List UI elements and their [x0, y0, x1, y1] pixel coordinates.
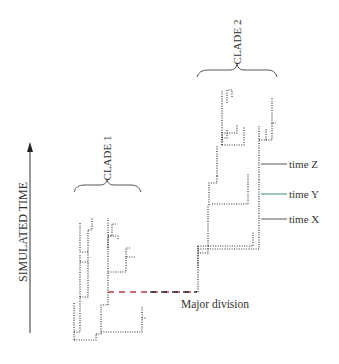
arrow-up-icon: [27, 142, 33, 152]
clade-2-label: CLADE 2: [231, 20, 243, 65]
clade-1-brace: [74, 180, 141, 192]
time-x-label: time X: [289, 213, 319, 225]
time-z-label: time Z: [289, 158, 318, 170]
clade-1-label: CLADE 1: [101, 136, 113, 181]
time-markers: time Z time Y time X: [261, 158, 319, 225]
phylogeny-diagram: SIMULATED TIME CLADE 1 CLADE 2 Major div…: [0, 0, 339, 364]
time-y-label: time Y: [289, 188, 319, 200]
axis-label: SIMULATED TIME: [16, 182, 30, 282]
clade-1-tree: [74, 218, 146, 340]
clade-2-brace: [197, 64, 277, 77]
clade-2-tree: [198, 90, 276, 292]
major-division-label: Major division: [181, 298, 249, 311]
